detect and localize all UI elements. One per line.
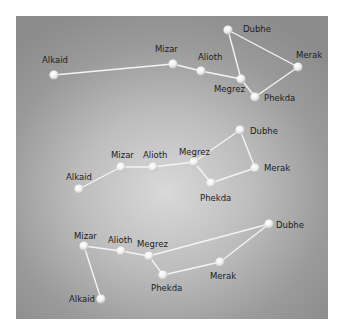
constellation-group-top: AlkaidMizarAliothMegrezDubheMerakPhekda — [42, 24, 322, 103]
star-dubhe-icon — [235, 125, 244, 134]
star-label-dubhe: Dubhe — [250, 126, 278, 136]
star-label-mizar: Mizar — [111, 150, 134, 160]
star-label-mizar: Mizar — [155, 44, 178, 54]
star-merak-icon — [293, 62, 302, 71]
star-megrez-icon — [236, 74, 245, 83]
star-label-alkaid: Alkaid — [42, 55, 68, 65]
link-dubhe-merak — [228, 30, 298, 67]
constellation-group-middle: AlkaidMizarAliothMegrezDubheMerakPhekda — [66, 125, 290, 203]
star-mizar-icon — [79, 241, 88, 250]
star-alioth-icon — [116, 246, 125, 255]
star-alioth-icon — [196, 66, 205, 75]
star-label-alioth: Alioth — [108, 235, 132, 245]
star-label-merak: Merak — [264, 163, 290, 173]
star-phekda-icon — [206, 178, 215, 187]
star-merak-icon — [215, 257, 224, 266]
star-label-alioth: Alioth — [143, 150, 167, 160]
star-label-dubhe: Dubhe — [243, 24, 271, 34]
link-alkaid-mizar — [84, 246, 101, 299]
star-phekda-icon — [250, 92, 259, 101]
star-mizar-icon — [116, 162, 125, 171]
star-dubhe-icon — [264, 219, 273, 228]
big-dipper-diagram: AlkaidMizarAliothMegrezDubheMerakPhekda … — [0, 0, 340, 334]
link-alioth-megrez — [201, 71, 241, 79]
link-alioth-megrez — [153, 162, 194, 167]
star-label-phekda: Phekda — [264, 93, 295, 103]
star-phekda-icon — [158, 270, 167, 279]
star-mizar-icon — [168, 59, 177, 68]
star-alkaid-icon — [96, 294, 105, 303]
constellation-group-bottom: MizarAliothMegrezPhekdaMerakDubheAlkaid — [69, 219, 304, 304]
star-label-mizar: Mizar — [74, 231, 97, 241]
star-label-dubhe: Dubhe — [276, 220, 304, 230]
star-label-merak: Merak — [210, 271, 236, 281]
star-alioth-icon — [148, 162, 157, 171]
link-mizar-alioth — [84, 246, 121, 251]
star-megrez-icon — [144, 251, 153, 260]
star-dubhe-icon — [223, 25, 232, 34]
star-label-phekda: Phekda — [151, 283, 182, 293]
star-alkaid-icon — [49, 70, 58, 79]
link-dubhe-merak — [220, 224, 269, 262]
star-label-merak: Merak — [296, 50, 322, 60]
star-merak-icon — [250, 163, 259, 172]
star-alkaid-icon — [74, 184, 83, 193]
star-label-alkaid: Alkaid — [66, 172, 92, 182]
star-label-megrez: Megrez — [137, 239, 168, 249]
star-label-phekda: Phekda — [200, 193, 231, 203]
link-merak-phekda — [211, 168, 255, 183]
star-label-alkaid: Alkaid — [69, 294, 95, 304]
star-label-megrez: Megrez — [179, 147, 210, 157]
star-label-alioth: Alioth — [198, 52, 222, 62]
link-megrez-dubhe — [228, 30, 241, 79]
star-megrez-icon — [189, 157, 198, 166]
link-alkaid-mizar — [54, 64, 173, 75]
star-label-megrez: Megrez — [214, 84, 245, 94]
link-megrez-dubhe — [194, 130, 240, 162]
